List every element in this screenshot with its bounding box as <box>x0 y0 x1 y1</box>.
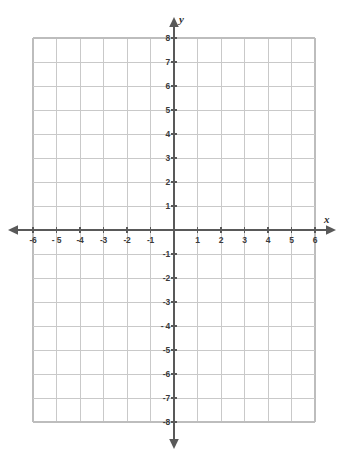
y-axis-tick-label: -6 <box>163 369 170 379</box>
coordinate-plane: -6- 5-4-3-2-1123456 87654321-1-2-3- 4-5-… <box>0 0 343 454</box>
x-axis-tick-label: 2 <box>219 235 224 245</box>
y-axis-tick-label: -1 <box>163 249 170 259</box>
y-axis-label: y <box>179 14 184 25</box>
y-axis-tick-label: 4 <box>165 129 170 139</box>
y-axis-up-arrowhead <box>169 17 179 27</box>
y-axis-tick-label: -7 <box>163 393 170 403</box>
x-axis <box>8 225 336 235</box>
y-axis-tick-label: -3 <box>163 297 170 307</box>
y-axis-tick-label: -2 <box>163 273 170 283</box>
x-axis-tick-label: -2 <box>123 235 130 245</box>
x-axis-tick-label: 5 <box>289 235 294 245</box>
x-axis-tick-label: -6 <box>29 235 36 245</box>
y-axis <box>169 17 179 449</box>
x-axis-left-arrowhead <box>8 225 18 235</box>
x-axis-tick-label: 3 <box>242 235 247 245</box>
y-axis-tick-label: 8 <box>165 33 170 43</box>
x-axis-tick-label: -1 <box>147 235 154 245</box>
x-axis-tick-label: 1 <box>195 235 200 245</box>
y-axis-down-arrowhead <box>169 439 179 449</box>
y-axis-tick-label: 7 <box>165 57 170 67</box>
x-axis-tick-label: -4 <box>76 235 83 245</box>
y-axis-tick-label: 5 <box>165 105 170 115</box>
y-axis-tick-label: 1 <box>165 201 170 211</box>
x-axis-tick-label: 6 <box>313 235 318 245</box>
x-axis-tick-label: - 5 <box>52 235 61 245</box>
y-axis-tick-label: 3 <box>165 153 170 163</box>
y-axis-tick-label: 6 <box>165 81 170 91</box>
x-axis-tick-label: -3 <box>100 235 107 245</box>
x-axis-tick-label: 4 <box>266 235 271 245</box>
y-axis-tick-label: - 4 <box>161 321 170 331</box>
x-axis-right-arrowhead <box>326 225 336 235</box>
y-axis-tick-label: -5 <box>163 345 170 355</box>
y-axis-tick-label: -8 <box>163 417 170 427</box>
x-axis-label: x <box>324 214 330 225</box>
y-axis-tick-label: 2 <box>165 177 170 187</box>
coordinate-plane-canvas <box>0 0 343 454</box>
